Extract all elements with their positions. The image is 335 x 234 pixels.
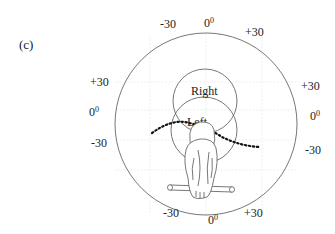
left-tick-plus: +30 xyxy=(90,76,109,88)
degree-sup: 0 xyxy=(316,109,320,118)
top-tick-minus: -30 xyxy=(160,18,176,30)
panel-label: (c) xyxy=(19,39,33,51)
degree-sup: 0 xyxy=(95,105,99,114)
bottom-tick-zero: 00 xyxy=(208,214,218,226)
right-tick-minus: -30 xyxy=(305,144,321,156)
left-tick-zero: 00 xyxy=(89,106,99,118)
degree-sup: 0 xyxy=(214,213,218,222)
bottom-tick-plus: +30 xyxy=(244,207,263,219)
degree-sup: 0 xyxy=(210,16,214,25)
top-tick-plus: +30 xyxy=(245,26,264,38)
right-label: Right xyxy=(191,84,218,98)
bottom-tick-minus: -30 xyxy=(163,207,179,219)
top-tick-zero: 00 xyxy=(204,17,214,29)
right-tick-plus: +30 xyxy=(301,80,320,92)
left-tick-minus: -30 xyxy=(91,137,107,149)
visual-field-diagram: Right Left xyxy=(0,0,335,234)
right-tick-zero: 00 xyxy=(310,110,320,122)
bird-icon xyxy=(185,122,217,199)
